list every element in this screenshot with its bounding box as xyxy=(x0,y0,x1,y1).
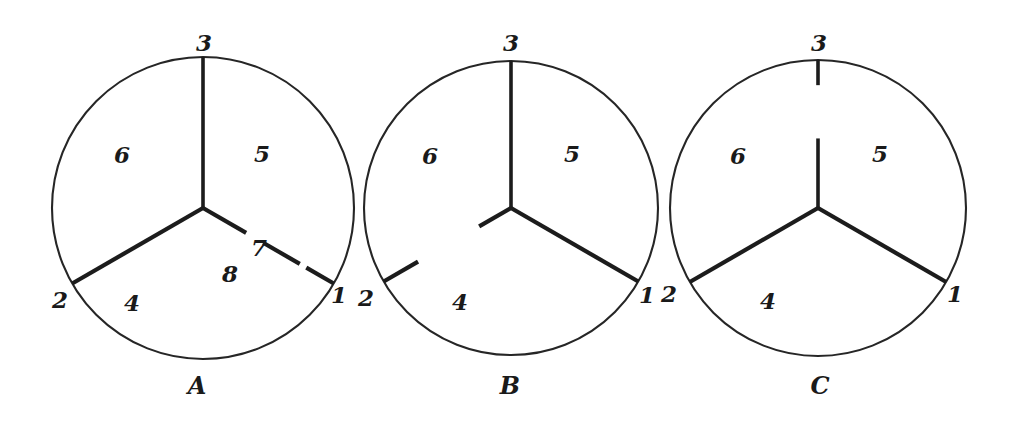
region-label-a-6: 6 xyxy=(114,143,130,166)
figure-canvas: 65432178A654321B654321C xyxy=(0,0,1012,429)
region-label-a-5: 5 xyxy=(254,142,270,165)
region-label-b-6: 6 xyxy=(422,144,438,167)
region-label-c-3: 3 xyxy=(811,31,827,54)
panel-caption-b: B xyxy=(500,374,520,398)
panel-caption-c: C xyxy=(810,374,829,398)
circles-diagram xyxy=(0,0,1012,429)
region-label-b-4: 4 xyxy=(452,290,468,313)
region-label-b-5: 5 xyxy=(564,142,580,165)
radius-segment-a-2-1 xyxy=(263,243,300,264)
panel-c xyxy=(670,60,966,356)
panel-a xyxy=(52,57,354,359)
region-label-a-4: 4 xyxy=(124,291,140,314)
boundary-label-b-2: 2 xyxy=(358,286,374,309)
boundary-label-b-3: 3 xyxy=(503,31,519,54)
radius-label-a-7: 7 xyxy=(251,236,267,259)
radius-segment-b-2-0 xyxy=(511,208,638,282)
radius-segment-c-2-0 xyxy=(818,208,946,282)
boundary-label-b-1: 1 xyxy=(639,283,655,306)
radius-label-a-8: 8 xyxy=(222,262,238,285)
panel-b xyxy=(364,61,658,355)
boundary-label-a-1: 1 xyxy=(331,283,347,306)
radius-segment-a-2-0 xyxy=(203,208,246,233)
boundary-label-a-3: 3 xyxy=(196,31,212,54)
diagram-shapes xyxy=(52,57,966,359)
radius-segment-c-1-0 xyxy=(690,208,818,282)
region-label-c-5: 5 xyxy=(872,142,888,165)
radius-segment-b-1-0 xyxy=(479,208,511,226)
radius-segment-a-2-2 xyxy=(306,268,333,284)
region-label-c-4: 4 xyxy=(760,289,776,312)
region-label-c-6: 6 xyxy=(730,144,746,167)
boundary-label-a-2: 2 xyxy=(52,288,68,311)
boundary-label-c-2: 2 xyxy=(661,282,677,305)
radius-segment-a-1-0 xyxy=(72,208,203,284)
radius-segment-b-1-1 xyxy=(384,262,418,282)
panel-caption-a: A xyxy=(188,374,207,398)
boundary-label-c-1: 1 xyxy=(947,282,963,305)
